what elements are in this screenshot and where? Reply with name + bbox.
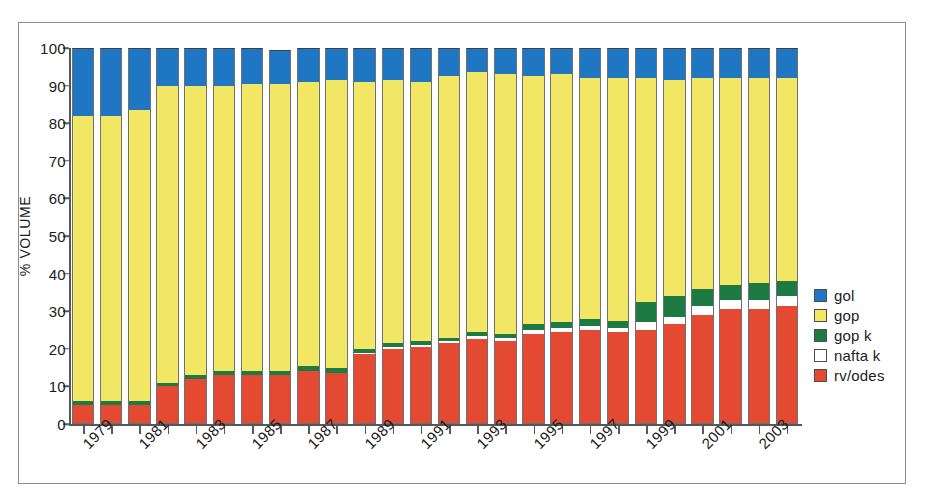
bar-segment-rv-odes: [382, 349, 405, 424]
bar-column[interactable]: [776, 48, 799, 424]
chart-figure: % VOLUME 0102030405060708090100 19791981…: [18, 22, 906, 484]
bar-segment-nafta-k: [494, 338, 517, 342]
bar-segment-nafta-k: [410, 345, 433, 347]
x-tick-mark: [83, 425, 85, 434]
bar-column[interactable]: [550, 48, 573, 424]
bar-segment-nafta-k: [522, 330, 545, 334]
bar-segment-gol: [719, 48, 742, 78]
bar-segment-gol: [184, 48, 207, 86]
bar-column[interactable]: [438, 48, 461, 424]
y-tick-label: 50: [49, 228, 66, 245]
legend-label: gol: [834, 287, 855, 304]
bar-segment-gop-k: [156, 383, 179, 387]
legend-swatch-icon: [814, 369, 827, 382]
y-tick-label: 20: [49, 340, 66, 357]
bar-segment-gop-k: [72, 401, 95, 405]
bar-segment-rv-odes: [719, 309, 742, 424]
bar-column[interactable]: [494, 48, 517, 424]
bar-segment-gol: [156, 48, 179, 86]
bar-column[interactable]: [325, 48, 348, 424]
bar-segment-gol: [635, 48, 658, 78]
bar-column[interactable]: [269, 48, 292, 424]
bar-column[interactable]: [213, 48, 236, 424]
bar-column[interactable]: [579, 48, 602, 424]
bar-segment-gop: [494, 74, 517, 333]
legend-item-gop-k[interactable]: gop k: [814, 325, 902, 345]
y-tick-label: 80: [49, 115, 66, 132]
legend-label: gop: [834, 307, 860, 324]
bar-column[interactable]: [353, 48, 376, 424]
bar-segment-rv-odes: [522, 334, 545, 424]
legend-swatch-icon: [814, 289, 827, 302]
bar-segment-gop: [213, 86, 236, 372]
bar-column[interactable]: [522, 48, 545, 424]
bar-segment-gop-k: [213, 371, 236, 375]
bar-segment-rv-odes: [72, 405, 95, 424]
bar-column[interactable]: [241, 48, 264, 424]
bar-segment-gop: [156, 86, 179, 383]
bar-column[interactable]: [128, 48, 151, 424]
bar-segment-gop: [635, 78, 658, 302]
bar-segment-gol: [663, 48, 686, 80]
bar-segment-gop-k: [382, 343, 405, 347]
legend-item-gop[interactable]: gop: [814, 305, 902, 325]
bar-segment-rv-odes: [607, 332, 630, 424]
bar-column[interactable]: [184, 48, 207, 424]
bar-segment-gol: [776, 48, 799, 78]
bar-column[interactable]: [466, 48, 489, 424]
bar-segment-gop-k: [466, 332, 489, 336]
bar-column[interactable]: [691, 48, 714, 424]
bar-segment-gop: [353, 82, 376, 349]
bar-column[interactable]: [72, 48, 95, 424]
bar-segment-rv-odes: [776, 306, 799, 424]
bar-column[interactable]: [297, 48, 320, 424]
bar-segment-gop: [184, 86, 207, 376]
bar-column[interactable]: [410, 48, 433, 424]
bar-column[interactable]: [607, 48, 630, 424]
bar-segment-rv-odes: [184, 379, 207, 424]
bar-column[interactable]: [100, 48, 123, 424]
bar-segment-nafta-k: [748, 300, 771, 309]
bar-segment-gol: [353, 48, 376, 82]
bar-segment-gop: [410, 82, 433, 341]
bar-segment-gop: [325, 80, 348, 368]
bar-segment-gol: [213, 48, 236, 86]
bar-segment-gop-k: [635, 302, 658, 323]
bar-segment-rv-odes: [550, 332, 573, 424]
legend-swatch-icon: [814, 309, 827, 322]
bar-segment-gol: [382, 48, 405, 80]
bar-segment-gop-k: [691, 289, 714, 306]
bar-segment-nafta-k: [353, 353, 376, 355]
y-tick-label: 70: [49, 152, 66, 169]
bar-column[interactable]: [663, 48, 686, 424]
bar-segment-gop-k: [748, 283, 771, 300]
bar-segment-rv-odes: [635, 330, 658, 424]
y-tick-label: 30: [49, 303, 66, 320]
bar-column[interactable]: [748, 48, 771, 424]
bar-segment-gop-k: [719, 285, 742, 300]
bar-column[interactable]: [382, 48, 405, 424]
bar-segment-nafta-k: [635, 322, 658, 330]
bar-segment-gol: [494, 48, 517, 74]
bar-segment-nafta-k: [607, 328, 630, 332]
legend-item-gol[interactable]: gol: [814, 285, 902, 305]
legend-item-nafta-k[interactable]: nafta k: [814, 345, 902, 365]
y-tick-label: 10: [49, 378, 66, 395]
bar-segment-gop: [663, 80, 686, 296]
bar-segment-gop-k: [438, 338, 461, 342]
bar-segment-gol: [241, 48, 264, 84]
bar-segment-rv-odes: [297, 371, 320, 424]
legend-item-rv-odes[interactable]: rv/odes: [814, 365, 902, 385]
legend-swatch-icon: [814, 329, 827, 342]
bar-column[interactable]: [635, 48, 658, 424]
x-tick-mark: [590, 425, 592, 434]
bar-segment-gop-k: [579, 319, 602, 327]
legend-label: nafta k: [834, 347, 880, 364]
chart-legend: golgopgop knafta krv/odes: [814, 285, 902, 385]
bar-segment-rv-odes: [494, 341, 517, 424]
bar-segment-gop: [72, 116, 95, 402]
bar-segment-gop: [128, 110, 151, 401]
bar-column[interactable]: [156, 48, 179, 424]
bar-column[interactable]: [719, 48, 742, 424]
bar-segment-nafta-k: [550, 328, 573, 332]
